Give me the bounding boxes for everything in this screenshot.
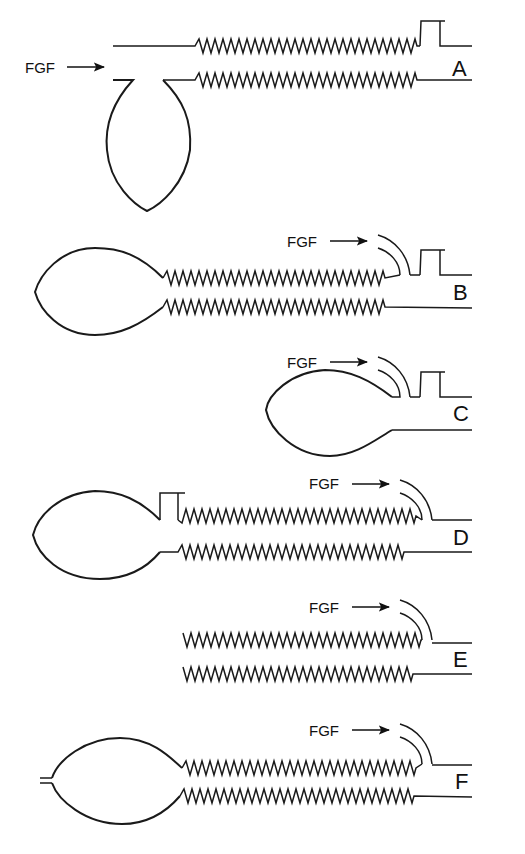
expiratory-valve-a bbox=[420, 21, 472, 46]
fgf-label-b: FGF bbox=[287, 233, 317, 250]
expiratory-valve-d bbox=[160, 493, 185, 520]
corrugated-tube-d-top bbox=[178, 509, 422, 523]
corrugated-tube-f-bottom bbox=[180, 789, 472, 803]
corrugated-tube-e-top bbox=[183, 633, 422, 647]
circuit-label-d: D bbox=[453, 525, 469, 550]
circuit-c: FGF C bbox=[266, 354, 472, 456]
fgf-inlet-b bbox=[378, 235, 420, 275]
reservoir-bag-b bbox=[35, 248, 163, 335]
circuit-label-c: C bbox=[453, 401, 469, 426]
fgf-label-c: FGF bbox=[287, 354, 317, 371]
corrugated-tube-b-bottom bbox=[163, 300, 472, 314]
fgf-label-d: FGF bbox=[309, 475, 339, 492]
corrugated-tube-b-top bbox=[163, 271, 400, 285]
fgf-label-a: FGF bbox=[25, 59, 55, 76]
circuit-e: FGF E bbox=[183, 599, 472, 681]
fgf-inlet-f bbox=[400, 724, 472, 765]
corrugated-tube-a-bottom bbox=[163, 73, 472, 87]
fgf-inlet-e bbox=[400, 600, 472, 643]
reservoir-bag-c bbox=[266, 370, 392, 456]
circuit-label-b: B bbox=[453, 280, 468, 305]
breathing-circuits-diagram: FGF A FGF B FGF C FGF D bbox=[0, 0, 525, 854]
circuit-a: FGF A bbox=[25, 21, 472, 211]
circuit-label-a: A bbox=[452, 56, 467, 81]
circuit-d: FGF D bbox=[33, 475, 472, 579]
reservoir-bag-a bbox=[107, 80, 191, 211]
circuit-f: FGF F bbox=[40, 722, 472, 824]
circuit-label-f: F bbox=[455, 769, 468, 794]
expiratory-valve-b bbox=[420, 250, 472, 275]
reservoir-bag-d bbox=[33, 491, 160, 579]
corrugated-tube-e-bottom bbox=[183, 667, 472, 681]
reservoir-bag-f bbox=[52, 738, 182, 824]
circuit-b: FGF B bbox=[35, 233, 472, 335]
corrugated-tube-f-top bbox=[182, 761, 422, 775]
fgf-label-f: FGF bbox=[309, 722, 339, 739]
corrugated-tube-a-top bbox=[113, 39, 420, 53]
circuit-label-e: E bbox=[453, 647, 468, 672]
bag-tail-port-f bbox=[40, 778, 52, 783]
fgf-label-e: FGF bbox=[309, 599, 339, 616]
corrugated-tube-d-bottom bbox=[160, 545, 472, 559]
expiratory-valve-c bbox=[420, 372, 472, 397]
